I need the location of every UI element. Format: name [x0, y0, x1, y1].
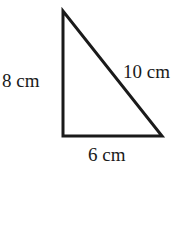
hypotenuse-label: 10 cm	[123, 62, 170, 81]
base-label: 6 cm	[88, 145, 125, 164]
left-side-label: 8 cm	[2, 71, 39, 90]
